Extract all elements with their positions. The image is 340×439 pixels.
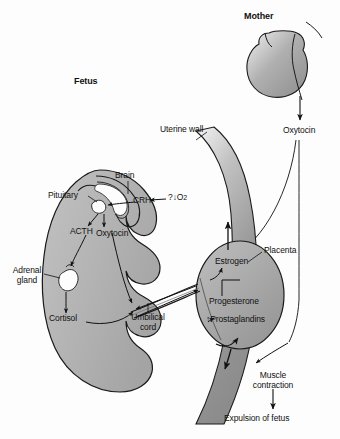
label-adrenal-gland: Adrenal gland (7, 265, 47, 285)
label-low-oxygen: ?↓O2 (168, 192, 187, 203)
oxytocin-down-to-contraction (289, 300, 299, 342)
mother-brain-figure (247, 22, 322, 100)
oxygen-to-crh-arrow (150, 199, 166, 200)
muscle-contraction-arrow (256, 343, 288, 363)
label-placenta: Placenta (264, 245, 296, 255)
label-estrogen: Estrogen (215, 256, 248, 266)
label-oxytocin-fetus: Oxytocin (96, 228, 128, 238)
label-brain: Brain (115, 170, 134, 180)
label-acth: ACTH (70, 226, 93, 236)
label-muscle-contraction: Muscle contraction (241, 370, 305, 390)
muscle-contraction-line1: Muscle (260, 370, 286, 380)
label-fetus: Fetus (74, 76, 98, 86)
low-oxygen-subscript: 2 (183, 194, 187, 201)
umbilical-cord-line1: Umbilical (131, 312, 165, 322)
label-oxytocin-mother: Oxytocin (283, 125, 315, 135)
parturition-diagram: Mother Fetus Uterine wall Oxytocin Brain… (0, 0, 340, 439)
label-uterine-wall: Uterine wall (160, 124, 203, 134)
label-pituitary: Pituitary (48, 190, 78, 200)
label-expulsion: Expulsion of fetus (224, 413, 289, 423)
umbilical-cord-line2: cord (140, 322, 156, 332)
muscle-contraction-line2: contraction (253, 380, 293, 390)
label-prostaglandins: ↑Prostaglandins (206, 314, 265, 324)
label-umbilical-cord: Umbilical cord (119, 312, 177, 332)
label-progesterone: Progesterone (209, 296, 259, 306)
adrenal-gland-line1: Adrenal (13, 265, 42, 275)
label-cortisol: Cortisol (49, 313, 77, 323)
adrenal-gland-line2: gland (17, 275, 37, 285)
label-crh: CRH (133, 195, 151, 205)
pituitary-gland (92, 200, 106, 213)
low-oxygen-text: ?↓O (168, 192, 183, 202)
label-mother: Mother (244, 11, 273, 21)
